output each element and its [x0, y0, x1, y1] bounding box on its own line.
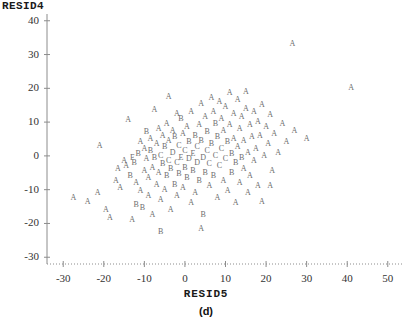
data-point-marker: A	[154, 140, 160, 148]
data-point-marker: A	[125, 116, 131, 124]
data-point-marker: A	[164, 120, 170, 128]
data-point-marker: B	[172, 181, 177, 189]
x-axis-ticks	[63, 261, 388, 267]
data-point-marker: A	[198, 100, 204, 108]
x-tick-label: 30	[287, 272, 327, 284]
data-point-marker: B	[229, 169, 234, 177]
x-tick-label: 50	[368, 272, 408, 284]
data-point-marker: A	[275, 149, 281, 157]
data-point-marker: B	[192, 132, 197, 140]
y-tick-label: -20	[5, 216, 39, 228]
x-tick-label: -10	[124, 272, 164, 284]
y-tick-label: 20	[5, 81, 39, 93]
y-tick-label: -10	[5, 183, 39, 195]
data-point-marker: A	[292, 127, 298, 135]
data-point-marker: B	[190, 167, 195, 175]
data-point-marker: A	[174, 110, 180, 118]
data-point-marker: A	[152, 106, 158, 114]
data-point-marker: A	[196, 121, 202, 129]
data-point-marker: A	[158, 196, 164, 204]
data-point-marker: B	[213, 120, 218, 128]
data-point-marker: A	[180, 184, 186, 192]
data-point-marker: B	[184, 174, 189, 182]
y-tick-label: 10	[5, 115, 39, 127]
data-point-marker: A	[348, 84, 354, 92]
data-point-marker: A	[239, 113, 245, 121]
data-point-marker: B	[233, 159, 238, 167]
data-point-marker: B	[205, 128, 210, 136]
data-point-marker: B	[201, 211, 206, 219]
data-point-marker: A	[129, 216, 135, 224]
data-point-marker: A	[263, 123, 269, 131]
data-point-marker: B	[209, 140, 214, 148]
data-point-marker: A	[269, 167, 275, 175]
data-point-marker: B	[136, 150, 141, 158]
data-point-marker: A	[117, 184, 123, 192]
data-point-marker: A	[237, 125, 243, 133]
data-point-marker: A	[251, 157, 257, 165]
data-point-marker: A	[214, 194, 220, 202]
data-point-marker: A	[247, 172, 253, 180]
data-point-marker: A	[137, 187, 143, 195]
data-point-marker: B	[215, 133, 220, 141]
x-tick-label: 40	[327, 272, 367, 284]
data-point-marker: A	[253, 145, 259, 153]
data-point-marker: B	[186, 138, 191, 146]
data-point-marker: C	[207, 160, 212, 168]
data-point-marker: B	[203, 169, 208, 177]
scatter-plot-figure: RESID4 -30-20-10010203040 -30-20-1001020…	[0, 0, 412, 322]
data-point-marker: A	[243, 88, 249, 96]
data-point-marker: A	[271, 130, 277, 138]
data-point-marker: A	[70, 194, 76, 202]
data-point-marker: A	[279, 120, 285, 128]
data-point-marker: A	[192, 189, 198, 197]
data-point-marker: B	[168, 165, 173, 173]
data-point-marker: A	[144, 155, 150, 163]
data-point-marker: B	[152, 154, 157, 162]
data-point-marker: A	[221, 177, 227, 185]
data-point-marker: A	[166, 93, 172, 101]
data-point-marker: A	[188, 108, 194, 116]
data-point-marker: B	[225, 138, 230, 146]
data-point-marker: A	[166, 137, 172, 145]
x-tick-label: -20	[84, 272, 124, 284]
data-point-marker: A	[219, 115, 225, 123]
data-point-marker: B	[127, 172, 132, 180]
data-point-marker: A	[168, 206, 174, 214]
data-point-marker: A	[255, 118, 261, 126]
data-point-marker: A	[188, 199, 194, 207]
data-point-marker: A	[115, 165, 121, 173]
data-point-marker: A	[247, 121, 253, 129]
x-tick-label: 10	[206, 272, 246, 284]
x-tick-label: 0	[165, 272, 205, 284]
data-point-marker: A	[255, 182, 261, 190]
data-point-marker: A	[259, 198, 265, 206]
data-point-marker: B	[158, 228, 163, 236]
data-point-marker: C	[176, 142, 181, 150]
data-point-marker: A	[198, 225, 204, 233]
data-point-marker: C	[213, 152, 218, 160]
data-point-marker: A	[206, 182, 212, 190]
x-tick-label: 20	[246, 272, 286, 284]
data-point-marker: C	[219, 145, 224, 153]
data-point-marker: A	[107, 214, 113, 222]
data-point-marker: D	[170, 149, 176, 157]
data-point-marker: A	[304, 135, 310, 143]
data-point-marker: A	[150, 164, 156, 172]
data-point-marker: A	[227, 121, 233, 129]
data-point-marker: A	[265, 140, 271, 148]
data-point-marker: A	[231, 110, 237, 118]
y-tick-label: 40	[5, 14, 39, 26]
data-point-marker: A	[243, 105, 249, 113]
data-point-marker: A	[141, 145, 147, 153]
data-point-marker: B	[198, 137, 203, 145]
data-point-marker: A	[174, 192, 180, 200]
data-point-marker: B	[182, 164, 187, 172]
y-tick-label: 0	[5, 149, 39, 161]
data-point-marker: A	[259, 101, 265, 109]
data-point-marker: A	[225, 187, 231, 195]
data-point-marker: A	[267, 182, 273, 190]
data-point-marker: A	[257, 132, 263, 140]
data-point-marker: A	[221, 127, 227, 135]
data-point-marker: A	[162, 186, 168, 194]
